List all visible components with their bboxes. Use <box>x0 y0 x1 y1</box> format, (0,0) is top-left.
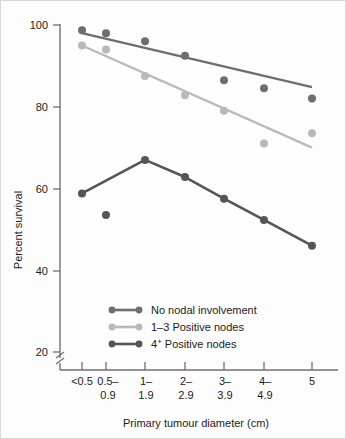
legend-marker-1-right <box>136 324 143 331</box>
y-tick-label-20: 20 <box>36 346 48 358</box>
legend-label-2: 4+ Positive nodes <box>151 337 237 350</box>
axes-group <box>56 24 338 370</box>
data-point <box>308 242 316 250</box>
x-tick-label-2-line1: 1– <box>140 375 153 387</box>
series-2-line <box>82 160 312 246</box>
data-point <box>78 189 86 197</box>
legend-marker-2-right <box>136 341 143 348</box>
data-point <box>181 52 189 60</box>
data-point <box>220 107 228 115</box>
x-tick-label-5-line2: 4.9 <box>257 389 272 401</box>
data-point <box>102 46 110 54</box>
data-point <box>181 173 189 181</box>
x-tick-label-0-line1: <0.5 <box>71 375 93 387</box>
data-point <box>220 76 228 84</box>
data-point <box>220 195 228 203</box>
legend-marker-0-left <box>109 307 116 314</box>
data-point <box>141 37 149 45</box>
series-2 <box>78 156 316 250</box>
y-ticks-group: 100 80 60 40 20 <box>30 19 60 358</box>
x-tick-label-3-line2: 2.9 <box>178 389 193 401</box>
x-tick-label-5-line1: 4– <box>259 375 272 387</box>
series-0 <box>78 26 316 102</box>
x-tick-labels-group: <0.5 0.5– 0.9 1– 1.9 2– 2.9 3– 3.9 4– 4.… <box>71 375 315 401</box>
x-tick-label-4-line2: 3.9 <box>217 389 232 401</box>
y-tick-label-80: 80 <box>36 101 48 113</box>
legend-item-1-3-positive-nodes[interactable]: 1–3 Positive nodes <box>109 321 245 333</box>
data-point <box>260 84 268 92</box>
legend-label-1: 1–3 Positive nodes <box>151 321 244 333</box>
y-tick-label-100: 100 <box>30 19 48 31</box>
legend-item-4-plus-positive-nodes[interactable]: 4+ Positive nodes <box>109 337 237 350</box>
x-tick-label-2-line2: 1.9 <box>138 389 153 401</box>
data-point <box>260 216 268 224</box>
data-point <box>308 129 316 137</box>
data-point <box>141 156 149 164</box>
x-tick-label-1-line2: 0.9 <box>100 389 115 401</box>
legend-item-no-nodal-involvement[interactable]: No nodal involvement <box>109 304 257 316</box>
data-point <box>308 95 316 103</box>
data-point <box>78 41 86 49</box>
legend-marker-2-left <box>109 341 116 348</box>
legend-label-0: No nodal involvement <box>151 304 257 316</box>
data-point <box>181 91 189 99</box>
data-point <box>260 140 268 148</box>
x-ticks-group <box>82 362 312 370</box>
figure-container: 100 80 60 40 20 Percent survival <0.5 0.… <box>0 0 346 439</box>
x-tick-label-1-line1: 0.5– <box>97 375 119 387</box>
x-tick-label-3-line1: 2– <box>180 375 193 387</box>
legend: No nodal involvement 1–3 Positive nodes … <box>109 304 257 350</box>
series-1 <box>78 41 316 147</box>
legend-marker-0-right <box>136 307 143 314</box>
x-axis-title: Primary tumour diameter (cm) <box>123 417 269 429</box>
data-point <box>102 29 110 37</box>
data-point <box>141 72 149 80</box>
data-point <box>102 211 110 219</box>
y-axis-title: Percent survival <box>12 191 24 269</box>
x-tick-label-4-line1: 3– <box>219 375 232 387</box>
survival-line-chart: 100 80 60 40 20 Percent survival <0.5 0.… <box>0 0 346 439</box>
y-tick-label-40: 40 <box>36 265 48 277</box>
data-point <box>78 26 86 34</box>
series-layer <box>78 26 316 249</box>
legend-label-2-suffix: Positive nodes <box>162 338 237 350</box>
y-tick-label-60: 60 <box>36 183 48 195</box>
x-tick-label-6-line1: 5 <box>309 375 315 387</box>
legend-marker-1-left <box>109 324 116 331</box>
